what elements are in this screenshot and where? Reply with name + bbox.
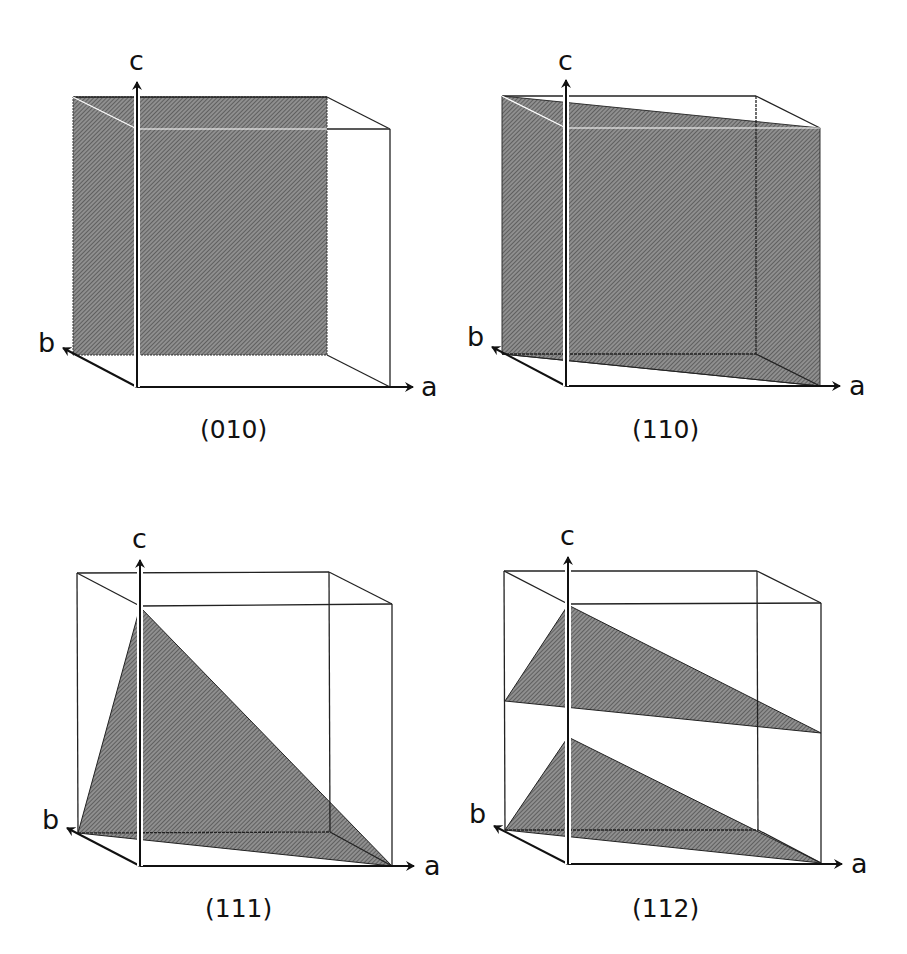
panel-111: c b a (111) bbox=[42, 523, 441, 923]
axis-label-a: a bbox=[424, 850, 441, 881]
caption-010: (010) bbox=[200, 415, 267, 444]
caption-110: (110) bbox=[632, 415, 699, 444]
panel-112: c b a (112) bbox=[469, 520, 868, 923]
panel-010: c b a (010) bbox=[38, 45, 438, 444]
axis-label-b: b bbox=[467, 321, 484, 352]
axis-label-c: c bbox=[560, 520, 575, 551]
plane-111 bbox=[78, 607, 392, 866]
miller-indices-figure: c b a (010) c b a (110) bbox=[0, 0, 907, 954]
panel-110: c b a (110) bbox=[467, 45, 866, 444]
axis-label-a: a bbox=[851, 848, 868, 879]
axis-label-b: b bbox=[38, 327, 55, 358]
plane-110 bbox=[502, 96, 820, 386]
axis-label-c: c bbox=[558, 45, 573, 76]
plane-112-lower bbox=[505, 737, 821, 863]
caption-111: (111) bbox=[205, 894, 272, 923]
plane-010 bbox=[73, 97, 327, 355]
axis-label-c: c bbox=[129, 45, 144, 76]
axis-label-b: b bbox=[469, 798, 486, 829]
axis-label-c: c bbox=[132, 523, 147, 554]
axis-label-b: b bbox=[42, 804, 59, 835]
plane-112-upper bbox=[505, 605, 821, 733]
caption-112: (112) bbox=[632, 894, 699, 923]
axis-label-a: a bbox=[849, 370, 866, 401]
axis-label-a: a bbox=[421, 371, 438, 402]
